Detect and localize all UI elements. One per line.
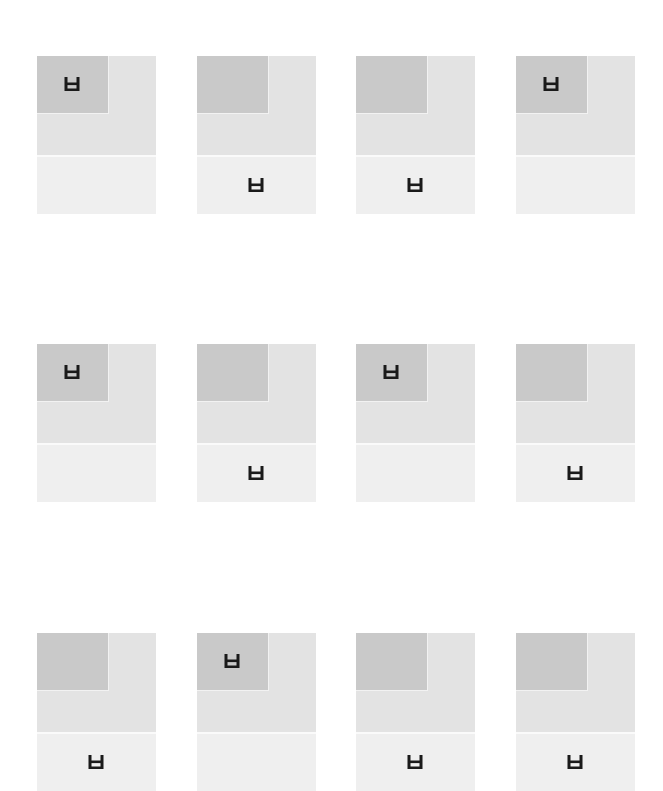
tile-r2-c3	[356, 344, 475, 502]
tile-r3-c4	[516, 633, 635, 791]
h-bracket-icon	[567, 466, 583, 480]
h-bracket-icon	[407, 178, 423, 192]
tile-r3-c1	[37, 633, 156, 791]
tile-r1-c4	[516, 56, 635, 214]
lower-panel	[37, 445, 156, 502]
h-bracket-icon	[88, 755, 104, 769]
dark-square	[516, 633, 588, 691]
lower-panel	[516, 157, 635, 214]
h-bracket-icon	[224, 654, 240, 668]
tile-r2-c2	[197, 344, 316, 502]
dark-square	[356, 633, 428, 691]
dark-square	[37, 633, 109, 691]
h-bracket-icon	[407, 755, 423, 769]
h-bracket-icon	[543, 77, 559, 91]
h-bracket-icon	[248, 178, 264, 192]
tile-r3-c2	[197, 633, 316, 791]
h-bracket-icon	[64, 365, 80, 379]
h-bracket-icon	[383, 365, 399, 379]
dark-square	[197, 344, 269, 402]
tile-r3-c3	[356, 633, 475, 791]
lower-panel	[37, 157, 156, 214]
dark-square	[516, 344, 588, 402]
tile-r1-c3	[356, 56, 475, 214]
tile-r1-c2	[197, 56, 316, 214]
dark-square	[197, 56, 269, 114]
h-bracket-icon	[248, 466, 264, 480]
tile-r2-c1	[37, 344, 156, 502]
lower-panel	[356, 445, 475, 502]
lower-panel	[197, 734, 316, 791]
h-bracket-icon	[567, 755, 583, 769]
dark-square	[356, 56, 428, 114]
tile-r1-c1	[37, 56, 156, 214]
tile-r2-c4	[516, 344, 635, 502]
h-bracket-icon	[64, 77, 80, 91]
